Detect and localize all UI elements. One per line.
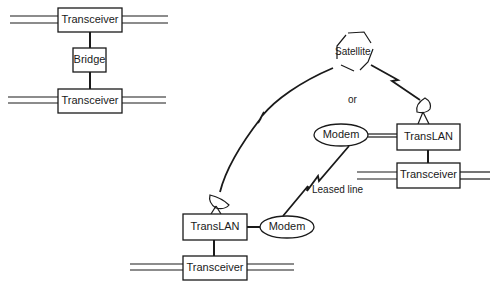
remote-translan-label: TransLAN [404, 130, 453, 142]
satellite-dish-icon [210, 195, 229, 214]
leased-line-link [283, 146, 349, 216]
bridge-label: Bridge [74, 53, 106, 65]
remote-transceiver-label: Transceiver [400, 168, 457, 180]
satellite-link-right [371, 65, 420, 100]
or-label: or [348, 94, 358, 105]
satellite-dish-icon [417, 98, 431, 124]
top-transceiver-label: Transceiver [61, 13, 118, 25]
bridge-configuration: Transceiver Bridge Transceiver [8, 8, 168, 113]
remote-bridge-configuration: Satellite or Modem TransLAN Transceiv [130, 32, 490, 280]
bottom-transceiver-label: Transceiver [61, 94, 118, 106]
leased-line-label: Leased line [312, 184, 364, 195]
local-modem-label: Modem [269, 220, 306, 232]
remote-modem-label: Modem [323, 128, 360, 140]
satellite-label: Satellite [335, 46, 371, 57]
network-diagram: Transceiver Bridge Transceiver Satellite… [0, 0, 498, 291]
local-transceiver-label: Transceiver [186, 261, 243, 273]
local-translan-label: TransLAN [190, 220, 239, 232]
